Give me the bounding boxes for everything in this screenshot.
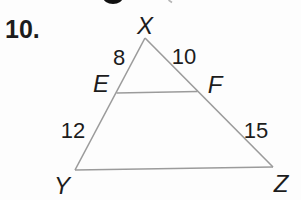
vertex-label-y: Y <box>54 172 72 199</box>
length-label-ey: 12 <box>61 118 85 143</box>
problem-number: 10. <box>5 15 40 43</box>
triangle-side-xy <box>75 38 145 170</box>
midpoint-label-e: E <box>93 70 110 97</box>
cropped-mark-artifact <box>169 0 173 3</box>
cropped-glyph-artifact <box>103 0 123 4</box>
length-label-xe: 8 <box>113 45 125 70</box>
midsegment-ef <box>117 92 198 94</box>
geometry-diagram: 10. X Y Z E F 8 10 12 15 <box>0 0 301 200</box>
length-label-xf: 10 <box>172 44 196 69</box>
triangle-side-yz <box>75 167 273 170</box>
midpoint-label-f: F <box>208 71 224 98</box>
length-label-fz: 15 <box>244 118 268 143</box>
triangle-side-xz <box>145 38 273 167</box>
worksheet-figure: 10. X Y Z E F 8 10 12 15 <box>0 0 301 200</box>
vertex-label-z: Z <box>273 170 290 197</box>
vertex-label-x: X <box>136 12 154 39</box>
